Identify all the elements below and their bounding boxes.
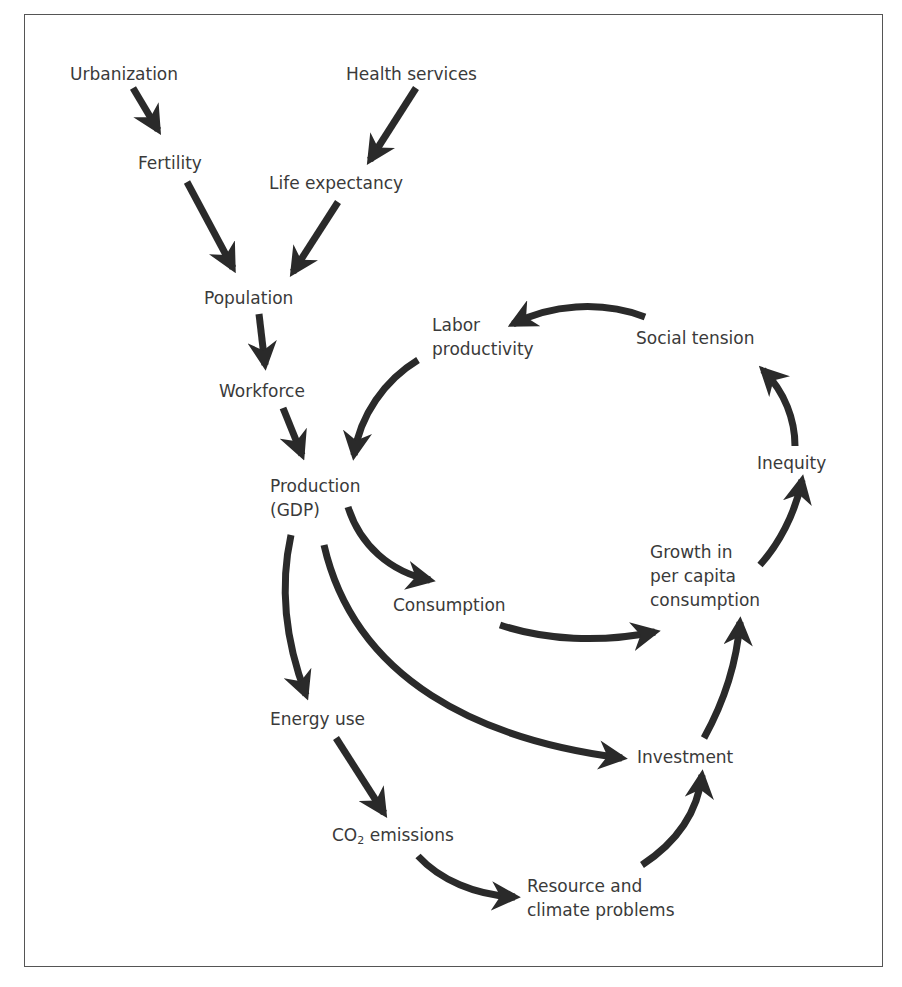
node-label-line2: per capita: [650, 564, 760, 588]
node-co2-emissions: CO2 emissions: [332, 823, 454, 853]
arrow-consumption-growth: [500, 625, 655, 639]
node-label: Inequity: [757, 453, 826, 473]
node-label-line2: productivity: [432, 337, 534, 361]
node-label: Energy use: [270, 709, 365, 729]
node-inequity: Inequity: [757, 451, 826, 475]
node-label-line1: Production: [270, 474, 360, 498]
node-production: Production (GDP): [270, 474, 360, 522]
node-label: Fertility: [138, 153, 202, 173]
arrow-urbanization-fertility: [133, 88, 158, 130]
node-label: Urbanization: [70, 64, 178, 84]
arrow-workforce-production: [283, 408, 302, 455]
co2-suffix: emissions: [364, 825, 454, 845]
node-workforce: Workforce: [219, 379, 305, 403]
node-label-line2: (GDP): [270, 498, 360, 522]
node-label-line1: Resource and: [527, 874, 675, 898]
arrow-fertility-population: [187, 182, 233, 268]
node-growth-per-capita-consumption: Growth in per capita consumption: [650, 540, 760, 612]
arrow-energy-co2: [336, 738, 384, 813]
node-label: Social tension: [636, 328, 754, 348]
node-label-line3: consumption: [650, 588, 760, 612]
arrow-production-energy: [285, 535, 306, 695]
arrow-production-investment: [324, 545, 622, 758]
node-social-tension: Social tension: [636, 326, 754, 350]
node-fertility: Fertility: [138, 151, 202, 175]
node-resource-climate-problems: Resource and climate problems: [527, 874, 675, 922]
arrow-health-life-expectancy: [370, 88, 416, 160]
node-health-services: Health services: [346, 62, 477, 86]
node-labor-productivity: Labor productivity: [432, 313, 534, 361]
node-label: Health services: [346, 64, 477, 84]
node-label: Workforce: [219, 381, 305, 401]
co2-prefix: CO: [332, 825, 357, 845]
node-investment: Investment: [637, 745, 733, 769]
node-label: Life expectancy: [269, 173, 403, 193]
arrow-labor-production: [354, 360, 418, 455]
node-label: Population: [204, 288, 293, 308]
node-label-line2: climate problems: [527, 898, 675, 922]
arrow-investment-growth: [704, 622, 740, 738]
node-label-line1: Labor: [432, 313, 534, 337]
arrow-life-expectancy-population: [293, 202, 338, 272]
arrow-growth-inequity: [760, 480, 802, 565]
node-label-line1: Growth in: [650, 540, 760, 564]
arrow-population-workforce: [259, 314, 265, 365]
node-label: Investment: [637, 747, 733, 767]
arrow-inequity-social: [763, 370, 795, 446]
arrow-co2-resource: [418, 856, 515, 897]
node-urbanization: Urbanization: [70, 62, 178, 86]
node-consumption: Consumption: [393, 593, 506, 617]
node-population: Population: [204, 286, 293, 310]
node-life-expectancy: Life expectancy: [269, 171, 403, 195]
node-label: Consumption: [393, 595, 506, 615]
node-energy-use: Energy use: [270, 707, 365, 731]
arrow-resource-investment: [642, 775, 702, 865]
